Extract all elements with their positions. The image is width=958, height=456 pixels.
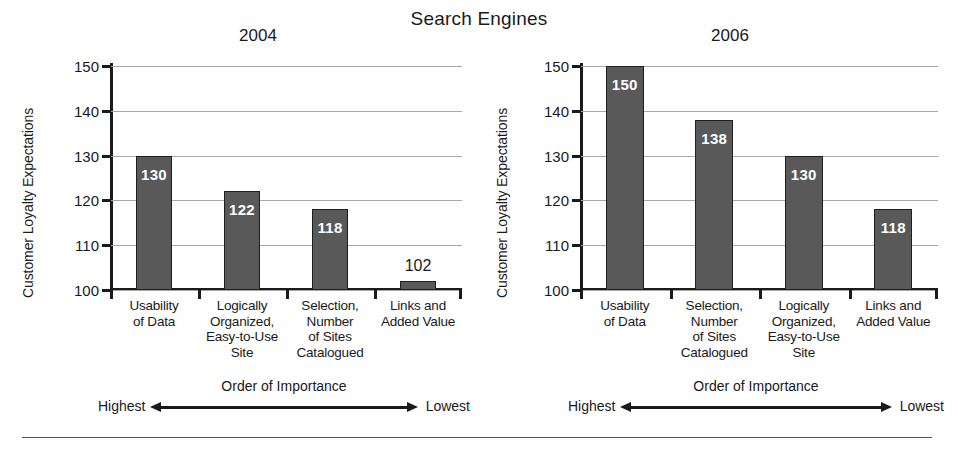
bar-value-label: 138 [696,130,732,147]
category-label-line: Site [198,345,286,361]
category-label-line: Number [286,314,374,330]
order-lowest-label: Lowest [426,398,470,414]
category-label-line: of Sites [670,329,760,345]
bar[interactable]: 150 [606,66,644,290]
y-tick-label: 150 [544,59,569,74]
bar-value-label: 130 [786,166,822,183]
category-label-line: Added Value [374,314,462,330]
category-label-line: Added Value [849,314,939,330]
bar[interactable]: 130 [136,156,173,290]
bar-value-label: 118 [313,219,348,236]
bar-value-label: 130 [137,166,172,183]
order-axis-title: Order of Importance [568,378,944,394]
double-arrow-icon [630,406,882,409]
category-label-line: of Sites [286,329,374,345]
bar-value-label: 102 [401,257,436,275]
y-axis-line [110,63,113,293]
category-label-line: Selection, [286,298,374,314]
category-label-line: Site [759,345,849,361]
gridline [110,66,462,67]
category-label-line: Usability [580,298,670,314]
y-axis-title: Customer Loyalty Expectations [494,108,510,298]
category-label-line: Links and [849,298,939,314]
order-axis-title: Order of Importance [98,378,470,394]
y-tick-mark [102,110,111,113]
category-label-line: Number [670,314,760,330]
category-label-line: Organized, [759,314,849,330]
category-label: Selection,Numberof SitesCatalogued [286,298,374,360]
bar[interactable]: 130 [785,156,823,290]
category-label-line: Selection, [670,298,760,314]
y-tick-mark [102,155,111,158]
category-label-line: Links and [374,298,462,314]
y-tick-label: 140 [74,103,99,118]
plot-area: 100110120130140150 130122118102 [110,66,462,290]
figure: Search Engines 2004 Customer Loyalty Exp… [0,0,958,456]
panel-year-label: 2004 [198,26,318,46]
y-tick-label: 130 [544,148,569,163]
bar[interactable]: 118 [874,209,912,290]
order-highest-label: Highest [98,398,145,414]
order-highest-label: Highest [568,398,615,414]
category-label-line: Catalogued [670,345,760,361]
category-label: Links andAdded Value [849,298,939,329]
category-label-line: of Data [580,314,670,330]
category-label-line: Logically [759,298,849,314]
chart-panel-2006: 2006 Customer Loyalty Expectations 10011… [480,0,958,456]
bar-value-label: 118 [875,219,911,236]
bar-value-label: 122 [225,201,260,218]
category-label: LogicallyOrganized,Easy-to-UseSite [198,298,286,360]
y-tick-mark [572,65,581,68]
bar[interactable]: 118 [312,209,349,290]
order-of-importance-axis: Order of Importance Highest Lowest [568,378,944,424]
y-tick-mark [572,244,581,247]
gridline [110,111,462,112]
y-tick-label: 130 [74,148,99,163]
double-arrow-icon [160,406,408,409]
y-tick-mark [102,199,111,202]
chart-panel-2004: 2004 Customer Loyalty Expectations 10011… [2,0,480,456]
y-tick-label: 100 [544,283,569,298]
bar[interactable]: 102 [400,281,437,290]
plot-area: 100110120130140150 150138130118 [580,66,938,290]
category-label-line: Easy-to-Use [198,329,286,345]
y-axis-title: Customer Loyalty Expectations [20,108,36,298]
category-label: LogicallyOrganized,Easy-to-UseSite [759,298,849,360]
y-tick-mark [572,199,581,202]
panel-year-label: 2006 [670,26,790,46]
y-tick-mark [572,155,581,158]
y-tick-label: 120 [74,193,99,208]
category-label-line: Easy-to-Use [759,329,849,345]
y-tick-label: 110 [545,238,569,253]
category-label-line: Organized, [198,314,286,330]
category-label: Usabilityof Data [580,298,670,329]
category-label: Links andAdded Value [374,298,462,329]
y-tick-label: 100 [74,283,99,298]
y-axis-line [580,63,583,293]
y-tick-label: 120 [544,193,569,208]
bar-value-label: 150 [607,76,643,93]
order-axis-row: Highest Lowest [98,397,470,419]
category-label: Usabilityof Data [110,298,198,329]
bar[interactable]: 122 [224,191,261,290]
category-label-line: Catalogued [286,345,374,361]
category-label-line: Usability [110,298,198,314]
category-label: Selection,Numberof SitesCatalogued [670,298,760,360]
y-tick-mark [102,244,111,247]
order-axis-row: Highest Lowest [568,397,944,419]
y-tick-label: 110 [75,238,99,253]
bottom-divider [22,437,932,438]
category-label-line: Logically [198,298,286,314]
y-tick-mark [102,65,111,68]
bar[interactable]: 138 [695,120,733,290]
y-tick-label: 150 [74,59,99,74]
category-label-line: of Data [110,314,198,330]
y-tick-mark [572,110,581,113]
y-tick-label: 140 [544,103,569,118]
order-lowest-label: Lowest [900,398,944,414]
order-of-importance-axis: Order of Importance Highest Lowest [98,378,470,424]
